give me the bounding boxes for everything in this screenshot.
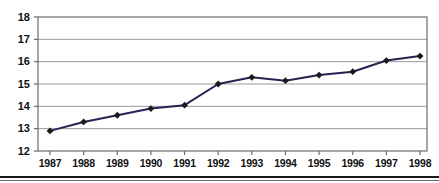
y-tick-label-15: 15 xyxy=(6,79,30,90)
x-tick-label-1987: 1987 xyxy=(33,158,67,169)
line-chart: 12131415161718 1987198819891990199119921… xyxy=(0,0,439,168)
x-axis-ticks xyxy=(50,151,420,155)
y-tick-label-18: 18 xyxy=(6,12,30,23)
y-tick-label-12: 12 xyxy=(6,146,30,157)
x-tick-label-1998: 1998 xyxy=(403,158,437,169)
plot-canvas xyxy=(0,0,439,168)
x-tick-label-1993: 1993 xyxy=(235,158,269,169)
x-tick-label-1992: 1992 xyxy=(201,158,235,169)
bottom-divider-thick xyxy=(0,176,439,178)
x-tick-label-1991: 1991 xyxy=(168,158,202,169)
chart-figure: 12131415161718 1987198819891990199119921… xyxy=(0,0,439,183)
x-tick-label-1990: 1990 xyxy=(134,158,168,169)
x-tick-label-1988: 1988 xyxy=(67,158,101,169)
y-tick-label-13: 13 xyxy=(6,123,30,134)
y-tick-label-17: 17 xyxy=(6,34,30,45)
x-tick-label-1995: 1995 xyxy=(302,158,336,169)
x-tick-label-1996: 1996 xyxy=(336,158,370,169)
bottom-divider-thin xyxy=(0,180,439,181)
x-tick-label-1997: 1997 xyxy=(369,158,403,169)
y-tick-label-16: 16 xyxy=(6,56,30,67)
y-tick-label-14: 14 xyxy=(6,101,30,112)
x-tick-label-1994: 1994 xyxy=(268,158,302,169)
x-tick-label-1989: 1989 xyxy=(100,158,134,169)
